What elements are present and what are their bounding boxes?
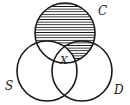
label-x: X bbox=[59, 54, 69, 67]
label-s: S bbox=[5, 79, 13, 93]
label-c: C bbox=[98, 4, 107, 18]
venn-diagram: C S D X bbox=[0, 0, 130, 105]
shaded-region-c-minus-s bbox=[0, 0, 130, 105]
label-d: D bbox=[113, 83, 124, 97]
